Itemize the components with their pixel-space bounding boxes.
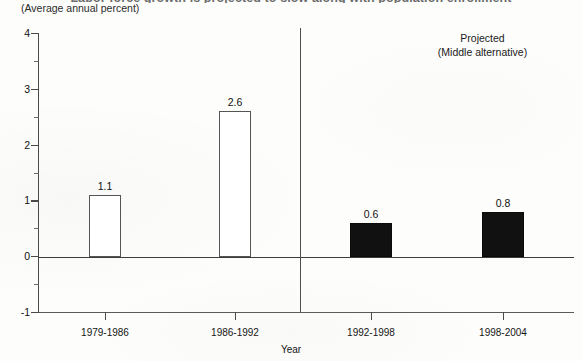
y-axis-label-4: 4 [4, 28, 30, 39]
bar-value-1979-1986: 1.1 [85, 181, 125, 192]
x-axis-title: Year [0, 344, 582, 355]
bar-value-1998-2004: 0.8 [483, 198, 523, 209]
x-tick-1979-1986 [105, 312, 106, 320]
y-axis-label-neg1: -1 [4, 307, 30, 318]
chart-figure: Labor force growth is projected to slow … [0, 0, 582, 361]
y-minor-tick-2-5 [34, 117, 40, 118]
projected-annotation-line1: Projected [460, 32, 504, 44]
bar-value-1992-1998: 0.6 [351, 209, 391, 220]
x-tick-1992-1998 [371, 312, 372, 320]
bar-1986-1992 [219, 111, 251, 257]
x-tick-1998-2004 [503, 312, 504, 320]
x-axis-label-1986-1992: 1986-1992 [195, 327, 275, 338]
plot-area: 4 3 2 1 0 -1 1.1 2.6 0.6 0.8 1979-1986 1… [0, 0, 582, 361]
y-minor-tick-1-5 [34, 173, 40, 174]
projected-annotation-line2: (Middle alternative) [385, 45, 580, 59]
bar-value-1986-1992: 2.6 [215, 97, 255, 108]
bar-1979-1986 [89, 195, 121, 257]
projected-annotation: Projected (Middle alternative) [385, 31, 580, 59]
y-axis-label-1: 1 [4, 195, 30, 206]
y-tick-3 [31, 89, 39, 90]
y-axis-label-3: 3 [4, 84, 30, 95]
x-axis-label-1992-1998: 1992-1998 [331, 327, 411, 338]
x-axis-line [38, 312, 574, 313]
y-tick-0 [31, 256, 39, 257]
bar-1998-2004 [482, 212, 524, 257]
y-tick-neg1 [31, 312, 39, 313]
y-axis-label-2: 2 [4, 140, 30, 151]
y-axis-label-0: 0 [4, 251, 30, 262]
projection-divider-line [300, 28, 301, 312]
y-tick-4 [31, 33, 39, 34]
bar-1992-1998 [350, 223, 392, 257]
y-tick-1 [31, 200, 39, 201]
y-minor-tick-neg0-5 [34, 284, 40, 285]
x-axis-label-1998-2004: 1998-2004 [463, 327, 543, 338]
y-minor-tick-3-5 [34, 61, 40, 62]
y-minor-tick-0-5 [34, 228, 40, 229]
y-tick-2 [31, 145, 39, 146]
x-axis-label-1979-1986: 1979-1986 [65, 327, 145, 338]
x-tick-1986-1992 [235, 312, 236, 320]
